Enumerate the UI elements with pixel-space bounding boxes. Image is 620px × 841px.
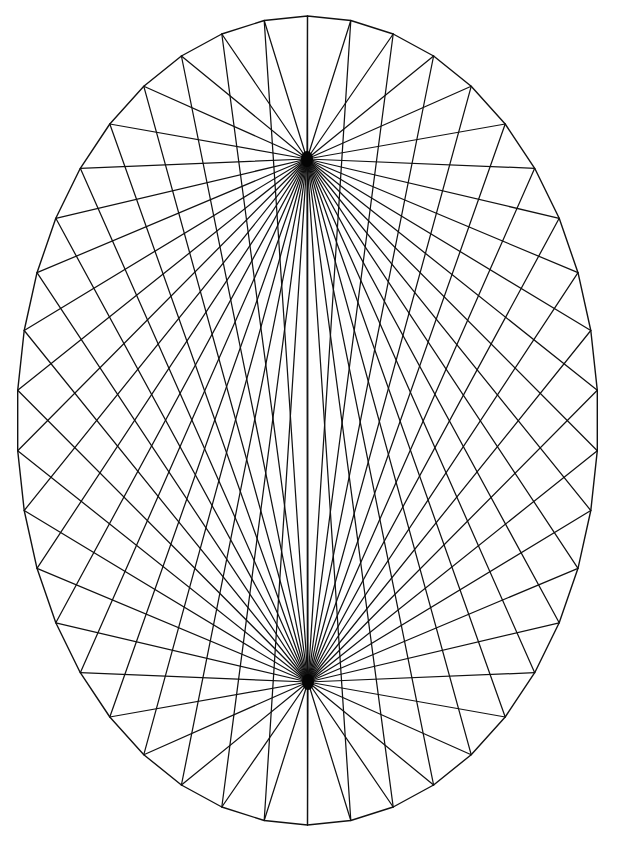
lower-focus-ray xyxy=(56,218,308,682)
upper-focus-ray xyxy=(307,159,591,511)
lower-focus-ray xyxy=(37,273,308,682)
lower-focus-ray xyxy=(308,124,505,682)
upper-focus-ray xyxy=(110,159,307,717)
lower-focus-ray xyxy=(110,682,308,717)
lower-focus-ray xyxy=(24,331,308,683)
upper-focus-ray xyxy=(264,159,307,821)
upper-focus-ray xyxy=(110,124,307,159)
lower-focus-ray xyxy=(264,682,308,821)
lower-focus-ray xyxy=(181,682,308,785)
lower-focus-ray xyxy=(264,21,308,683)
upper-focus-ray xyxy=(307,159,471,755)
lower-focus-ray xyxy=(308,568,578,682)
upper-focus-ray xyxy=(144,159,307,755)
upper-focus-ray xyxy=(181,56,307,159)
lower-focus-ray xyxy=(181,56,308,682)
upper-focus-ray xyxy=(307,159,351,821)
lower-focus-ray xyxy=(110,124,308,682)
upper-focus-ray xyxy=(307,124,505,159)
lower-focus-ray xyxy=(144,86,308,682)
lower-focus-ray xyxy=(308,682,351,821)
upper-focus-ray xyxy=(307,159,597,451)
upper-focus-ray xyxy=(37,159,307,273)
lower-focus-ray xyxy=(24,511,308,683)
lower-focus-rays xyxy=(18,16,598,825)
lower-focus-ray xyxy=(308,682,434,785)
lower-focus-ray xyxy=(308,682,505,717)
upper-focus-ray xyxy=(18,159,307,451)
lower-focus-point xyxy=(302,674,314,690)
upper-focus-ray xyxy=(307,21,351,160)
lower-focus-ray xyxy=(308,331,591,683)
lower-focus-ray xyxy=(308,682,309,825)
lower-focus-ray xyxy=(37,568,308,682)
lower-focus-ray xyxy=(308,21,351,683)
lower-focus-ray xyxy=(308,390,597,682)
upper-focus-ray xyxy=(307,159,434,785)
upper-focus-ray xyxy=(24,159,307,331)
upper-focus-ray xyxy=(24,159,307,511)
lower-focus-ray xyxy=(308,16,309,682)
upper-focus-ray xyxy=(307,159,591,331)
upper-focus-ray xyxy=(307,56,434,159)
lower-focus-ray xyxy=(308,86,471,682)
upper-focus-ray xyxy=(264,21,307,160)
lower-focus-ray xyxy=(308,511,591,683)
lower-focus-ray xyxy=(18,390,308,682)
ellipse-foci-diagram xyxy=(0,0,620,841)
upper-focus-ray xyxy=(307,159,578,568)
upper-focus-ray xyxy=(307,159,578,273)
upper-focus-point xyxy=(301,151,313,167)
